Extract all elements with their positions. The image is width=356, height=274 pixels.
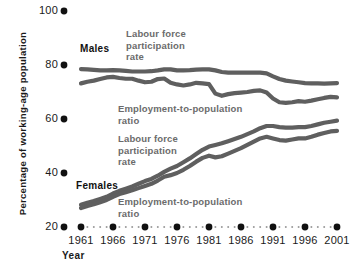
x-axis-major-dot bbox=[206, 224, 213, 231]
x-axis-major-dot bbox=[302, 224, 309, 231]
y-axis-dot-rail bbox=[61, 8, 68, 231]
x-axis-tick-2001: 2001 bbox=[320, 234, 354, 246]
x-axis-tick-1981: 1981 bbox=[192, 234, 226, 246]
x-axis-minor-dot bbox=[93, 226, 95, 228]
x-axis-tick-1976: 1976 bbox=[160, 234, 194, 246]
x-axis-minor-dot bbox=[170, 226, 172, 228]
x-axis-minor-dot bbox=[246, 226, 248, 228]
x-axis-minor-dot bbox=[163, 226, 165, 228]
x-axis-minor-dot bbox=[266, 226, 268, 228]
y-axis-tick-60: 60 bbox=[30, 112, 58, 124]
x-axis-minor-dot bbox=[125, 226, 127, 228]
x-axis-minor-dot bbox=[157, 226, 159, 228]
x-axis-title: Year bbox=[62, 250, 85, 261]
y-axis-tick-20: 20 bbox=[30, 220, 58, 232]
x-axis-minor-dot bbox=[182, 226, 184, 228]
x-axis-minor-dot bbox=[106, 226, 108, 228]
x-axis-minor-dot bbox=[317, 226, 319, 228]
x-axis-minor-dot bbox=[86, 226, 88, 228]
x-axis-tick-1991: 1991 bbox=[256, 234, 290, 246]
y-axis-marker-dot bbox=[61, 116, 68, 123]
x-axis-minor-dot bbox=[278, 226, 280, 228]
x-axis-tick-1996: 1996 bbox=[288, 234, 322, 246]
x-axis-minor-dot bbox=[131, 226, 133, 228]
x-axis-minor-dot bbox=[298, 226, 300, 228]
x-axis-tick-1966: 1966 bbox=[96, 234, 130, 246]
y-axis-marker-dot bbox=[61, 62, 68, 69]
x-axis-major-dot bbox=[142, 224, 149, 231]
y-axis-tick-80: 80 bbox=[30, 58, 58, 70]
x-axis-minor-dot bbox=[285, 226, 287, 228]
x-axis-minor-dot bbox=[259, 226, 261, 228]
x-axis-tick-1961: 1961 bbox=[64, 234, 98, 246]
chart-container: Percentage of working-age population 204… bbox=[0, 0, 356, 274]
x-axis-minor-dot bbox=[330, 226, 332, 228]
y-axis-marker-dot bbox=[61, 224, 68, 231]
x-axis-major-dot bbox=[238, 224, 245, 231]
x-axis-dot-rail bbox=[78, 224, 341, 231]
x-axis-minor-dot bbox=[189, 226, 191, 228]
x-axis-minor-dot bbox=[214, 226, 216, 228]
x-axis-tick-1986: 1986 bbox=[224, 234, 258, 246]
x-axis-minor-dot bbox=[195, 226, 197, 228]
series-group-label-females: Females bbox=[76, 180, 118, 191]
x-axis-minor-dot bbox=[118, 226, 120, 228]
x-axis-minor-dot bbox=[138, 226, 140, 228]
x-axis-minor-dot bbox=[227, 226, 229, 228]
y-axis-marker-dot bbox=[61, 8, 68, 15]
series-group-label-males: Males bbox=[80, 43, 109, 54]
y-axis-tick-100: 100 bbox=[30, 4, 58, 16]
x-axis-major-dot bbox=[334, 224, 341, 231]
x-axis-minor-dot bbox=[99, 226, 101, 228]
x-axis-minor-dot bbox=[310, 226, 312, 228]
x-axis-minor-dot bbox=[323, 226, 325, 228]
x-axis-major-dot bbox=[78, 224, 85, 231]
x-axis-minor-dot bbox=[253, 226, 255, 228]
x-axis-minor-dot bbox=[202, 226, 204, 228]
annotation-males-lfp: Labour force participation rate bbox=[126, 28, 186, 63]
x-axis-minor-dot bbox=[291, 226, 293, 228]
x-axis-major-dot bbox=[110, 224, 117, 231]
annotation-males-epr: Employment-to-population ratio bbox=[118, 103, 242, 126]
x-axis-minor-dot bbox=[234, 226, 236, 228]
y-axis-tick-40: 40 bbox=[30, 166, 58, 178]
x-axis-minor-dot bbox=[150, 226, 152, 228]
x-axis-tick-1971: 1971 bbox=[128, 234, 162, 246]
y-axis-marker-dot bbox=[61, 170, 68, 177]
annotation-females-epr: Employment-to-population ratio bbox=[118, 196, 242, 219]
x-axis-minor-dot bbox=[221, 226, 223, 228]
annotation-females-lfp: Labour force participation rate bbox=[118, 133, 178, 168]
x-axis-major-dot bbox=[270, 224, 277, 231]
y-axis-title: Percentage of working-age population bbox=[17, 14, 28, 234]
x-axis-major-dot bbox=[174, 224, 181, 231]
